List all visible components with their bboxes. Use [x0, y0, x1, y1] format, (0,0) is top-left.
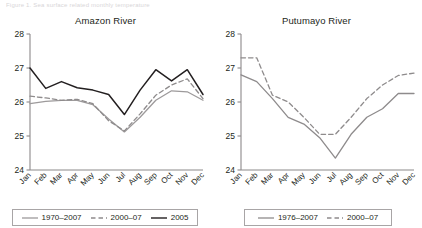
x-tick-label: Aug: [338, 171, 354, 187]
x-tick-label-group: Apr: [276, 170, 291, 185]
y-tick-label: 26: [15, 97, 25, 107]
y-tick-label: 27: [15, 63, 25, 73]
y-tick-label: 25: [226, 131, 236, 141]
series-line-0: [30, 91, 203, 132]
x-tick-label-group: Dec: [400, 171, 416, 187]
x-tick-label-group: Oct: [370, 170, 386, 186]
x-tick-label-group: Nov: [385, 171, 401, 187]
x-tick-label-group: May: [290, 171, 307, 188]
x-tick-label-group: Sep: [353, 170, 370, 187]
legend-entry-putumayo-1: 2000–07: [327, 213, 378, 222]
legend-label-amazon-2: 2005: [171, 213, 189, 222]
x-tick-label-group: Nov: [174, 171, 190, 187]
x-tick-label: Sep: [353, 170, 370, 187]
legend-entry-amazon-2: 2005: [151, 213, 189, 222]
series-line-1: [241, 58, 414, 135]
x-tick-label: Jul: [325, 170, 339, 184]
legend-swatch-solid-icon: [22, 215, 38, 221]
x-tick-label-group: Jun: [96, 171, 111, 186]
x-tick-label-group: Feb: [244, 170, 261, 187]
x-tick-label-group: Jul: [325, 170, 339, 184]
x-tick-label: Apr: [276, 170, 291, 185]
x-tick-label: Sep: [142, 170, 159, 187]
x-tick-label: Jun: [96, 171, 111, 186]
plot-area-amazon: 2425262728JanFebMarAprMayJunJulAugSepOct…: [0, 12, 211, 197]
x-tick-label: Jun: [307, 171, 322, 186]
x-tick-label-group: Apr: [65, 170, 80, 185]
legend-swatch-dashed-icon: [327, 215, 343, 221]
series-line-0: [241, 75, 414, 158]
x-tick-label: Feb: [33, 170, 50, 187]
legend-entry-amazon-0: 1970–2007: [22, 213, 82, 222]
x-tick-label-group: Jul: [114, 170, 128, 184]
y-tick-label: 26: [226, 97, 236, 107]
legend-swatch-dashed-icon: [91, 215, 107, 221]
y-tick-label: 28: [15, 29, 25, 39]
x-tick-label: Apr: [65, 170, 80, 185]
x-tick-label: Nov: [385, 171, 401, 187]
plot-area-putumayo: 2425262728JanFebMarAprMayJunJulAugSepOct…: [211, 12, 422, 197]
legend-label-putumayo-1: 2000–07: [347, 213, 378, 222]
x-tick-label: Dec: [400, 171, 416, 187]
x-tick-label: Dec: [189, 171, 205, 187]
x-tick-label: May: [290, 171, 307, 188]
legend-swatch-solid-dark-icon: [151, 215, 167, 221]
x-tick-label-group: Dec: [189, 171, 205, 187]
x-tick-label-group: Jun: [307, 171, 322, 186]
chart-panel-amazon: Amazon River 2425262728JanFebMarAprMayJu…: [0, 12, 211, 228]
x-tick-label: Nov: [174, 171, 190, 187]
legend-amazon: 1970–2007 2000–07 2005: [12, 209, 198, 226]
x-tick-label: Jul: [114, 170, 128, 184]
legend-entry-amazon-1: 2000–07: [91, 213, 142, 222]
x-tick-label: Oct: [370, 170, 386, 186]
x-tick-label-group: Oct: [159, 170, 175, 186]
x-tick-label-group: Feb: [33, 170, 50, 187]
x-tick-label-group: Aug: [338, 171, 354, 187]
y-tick-label: 25: [15, 131, 25, 141]
x-tick-label: Aug: [127, 171, 143, 187]
x-tick-label-group: Mar: [48, 170, 64, 186]
x-tick-label-group: Sep: [142, 170, 159, 187]
legend-putumayo: 1976–2007 2000–07: [244, 209, 392, 226]
x-tick-label: Mar: [259, 170, 275, 186]
figure-root: Figure 1. Sea surface related monthly te…: [0, 0, 422, 228]
y-tick-label: 28: [226, 29, 236, 39]
x-tick-label-group: May: [79, 171, 96, 188]
figure-caption-strip: Figure 1. Sea surface related monthly te…: [6, 0, 306, 10]
x-tick-label: May: [79, 171, 96, 188]
x-tick-label-group: Aug: [127, 171, 143, 187]
x-tick-label: Feb: [244, 170, 261, 187]
x-tick-label-group: Mar: [259, 170, 275, 186]
legend-label-amazon-1: 2000–07: [111, 213, 142, 222]
legend-entry-putumayo-0: 1976–2007: [258, 213, 318, 222]
legend-label-putumayo-0: 1976–2007: [278, 213, 318, 222]
x-tick-label: Mar: [48, 170, 64, 186]
chart-panel-putumayo: Putumayo River 2425262728JanFebMarAprMay…: [211, 12, 422, 228]
y-tick-label: 27: [226, 63, 236, 73]
legend-swatch-solid-icon: [258, 215, 274, 221]
x-tick-label: Oct: [159, 170, 175, 186]
legend-label-amazon-0: 1970–2007: [42, 213, 82, 222]
